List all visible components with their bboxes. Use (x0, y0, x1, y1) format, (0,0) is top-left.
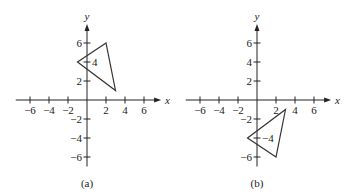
x-tick-label: 6 (311, 104, 317, 116)
panel-caption: (b) (251, 177, 264, 190)
panel-b: xy−6−4−2246642−2−4−6(b) (186, 10, 340, 190)
y-tick-label: 6 (247, 37, 253, 49)
x-axis-label: x (334, 94, 340, 106)
x-tick-label: −4 (43, 104, 55, 116)
x-axis-arrow-icon (154, 98, 161, 103)
x-tick-label: 2 (103, 104, 109, 116)
y-axis-label: y (84, 10, 90, 22)
panel-a: xy−6−4−2246642−2−4−6(a) (16, 10, 170, 190)
y-tick-label: 4 (92, 56, 98, 68)
y-tick-label: 4 (247, 56, 253, 68)
y-tick-label: −2 (240, 113, 252, 125)
y-tick-label: −6 (240, 151, 252, 163)
y-tick-label: −4 (70, 132, 82, 144)
figure: xy−6−4−2246642−2−4−6(a) xy−6−4−2246642−2… (0, 0, 356, 195)
y-tick-label: 2 (247, 75, 253, 87)
y-tick-label: −2 (70, 113, 82, 125)
x-tick-label: −6 (194, 104, 206, 116)
x-tick-label: −6 (24, 104, 36, 116)
x-tick-label: 6 (141, 104, 147, 116)
y-tick-label: −4 (262, 132, 274, 144)
panel-caption: (a) (81, 177, 94, 190)
x-tick-label: 4 (292, 104, 298, 116)
y-tick-label: 2 (77, 75, 83, 87)
y-tick-label: 6 (77, 37, 83, 49)
y-axis-arrow-icon (255, 24, 260, 31)
x-tick-label: 4 (122, 104, 128, 116)
y-axis-label: y (254, 10, 260, 22)
y-axis-arrow-icon (85, 24, 90, 31)
x-tick-label: 2 (273, 104, 279, 116)
x-tick-label: −4 (213, 104, 225, 116)
x-axis-label: x (164, 94, 170, 106)
y-tick-label: −6 (70, 151, 82, 163)
x-axis-arrow-icon (324, 98, 331, 103)
